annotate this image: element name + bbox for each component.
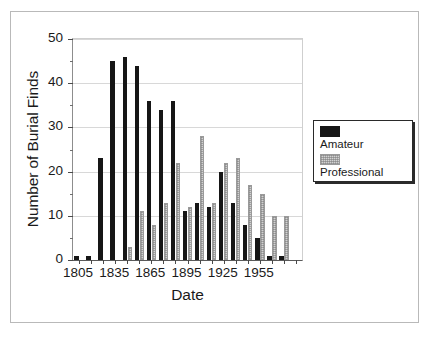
- y-axis-minor-tick: [70, 150, 73, 151]
- y-axis-title: Number of Burial Finds: [24, 34, 42, 264]
- bar-amateur-1835: [110, 61, 114, 260]
- gridline: [73, 127, 302, 128]
- bar-amateur-1885: [171, 101, 175, 260]
- bar-professional-1895: [188, 207, 192, 260]
- x-axis-tick: [212, 260, 213, 264]
- bar-amateur-1855: [135, 66, 139, 260]
- bar-professional-1925: [224, 163, 228, 260]
- y-axis-tick-label: 30: [0, 119, 63, 133]
- x-axis-tick-label: 1925: [203, 265, 243, 280]
- y-axis-tick: [68, 39, 73, 40]
- x-axis-tick: [139, 260, 140, 264]
- x-axis-tick: [272, 260, 273, 264]
- y-axis-tick: [68, 216, 73, 217]
- x-axis-tick: [296, 260, 297, 264]
- bar-professional-1875: [164, 203, 168, 260]
- legend-entry-professional: Professional: [320, 154, 406, 179]
- bar-professional-1855: [140, 211, 144, 260]
- y-axis-tick: [68, 83, 73, 84]
- legend-label-professional: Professional: [320, 166, 406, 179]
- bar-amateur-1935: [231, 203, 235, 260]
- legend-entry-amateur: Amateur: [320, 126, 406, 151]
- bar-professional-1845: [128, 247, 132, 260]
- bar-professional-1865: [152, 225, 156, 260]
- bar-amateur-1955: [255, 238, 259, 260]
- bar-amateur-1905: [195, 203, 199, 260]
- professional-swatch-icon: [320, 154, 340, 165]
- bar-professional-1965: [272, 216, 276, 260]
- y-axis-tick-label: 50: [0, 31, 63, 45]
- bar-professional-1975: [284, 216, 288, 260]
- y-axis-minor-tick: [70, 194, 73, 195]
- y-axis-tick-label: 10: [0, 208, 63, 222]
- x-axis-tick: [175, 260, 176, 264]
- x-axis-tick: [284, 260, 285, 264]
- bar-professional-1915: [212, 203, 216, 260]
- x-axis-tick-label: 1955: [239, 265, 279, 280]
- bar-chart-figure: Number of Burial Finds Date 01020304050 …: [0, 0, 430, 337]
- bar-professional-1885: [176, 163, 180, 260]
- plot-area: [72, 38, 303, 261]
- y-axis-tick: [68, 172, 73, 173]
- x-axis-tick: [200, 260, 201, 264]
- bar-amateur-1925: [219, 172, 223, 260]
- x-axis-tick: [260, 260, 261, 264]
- y-axis-tick: [68, 260, 73, 261]
- x-axis-tick-label: 1895: [167, 265, 207, 280]
- y-axis-minor-tick: [70, 105, 73, 106]
- legend-label-amateur: Amateur: [320, 138, 406, 151]
- amateur-swatch-icon: [320, 126, 340, 137]
- gridline: [73, 83, 302, 84]
- chart-legend: Amateur Professional: [313, 120, 413, 182]
- gridline: [73, 39, 302, 40]
- y-axis-minor-tick: [70, 61, 73, 62]
- plot-inner: [73, 39, 302, 260]
- x-axis-tick: [79, 260, 80, 264]
- y-axis-tick-label: 0: [0, 252, 63, 266]
- x-axis-tick: [188, 260, 189, 264]
- bar-amateur-1915: [207, 207, 211, 260]
- x-axis-tick: [163, 260, 164, 264]
- x-axis-tick: [248, 260, 249, 264]
- x-axis-tick: [236, 260, 237, 264]
- y-axis-tick-label: 40: [0, 75, 63, 89]
- bar-amateur-1845: [123, 57, 127, 260]
- x-axis-tick: [224, 260, 225, 264]
- chart-screenshot: Number of Burial Finds Date 01020304050 …: [0, 0, 430, 337]
- x-axis-tick: [151, 260, 152, 264]
- bar-amateur-1945: [243, 225, 247, 260]
- x-axis-tick-label: 1835: [94, 265, 134, 280]
- bar-professional-1945: [248, 185, 252, 260]
- gridline: [73, 172, 302, 173]
- y-axis-minor-tick: [70, 238, 73, 239]
- bar-amateur-1865: [147, 101, 151, 260]
- x-axis-tick: [91, 260, 92, 264]
- bar-amateur-1825: [98, 158, 102, 260]
- x-axis-tick-label: 1805: [58, 265, 98, 280]
- x-axis-tick: [103, 260, 104, 264]
- bar-amateur-1895: [183, 211, 187, 260]
- bar-professional-1955: [260, 194, 264, 260]
- bar-amateur-1875: [159, 110, 163, 260]
- y-axis-tick: [68, 127, 73, 128]
- bar-professional-1935: [236, 158, 240, 260]
- x-axis-tick: [127, 260, 128, 264]
- bar-professional-1905: [200, 136, 204, 260]
- x-axis-title: Date: [72, 286, 303, 304]
- x-axis-tick-label: 1865: [130, 265, 170, 280]
- y-axis-tick-label: 20: [0, 164, 63, 178]
- x-axis-tick: [115, 260, 116, 264]
